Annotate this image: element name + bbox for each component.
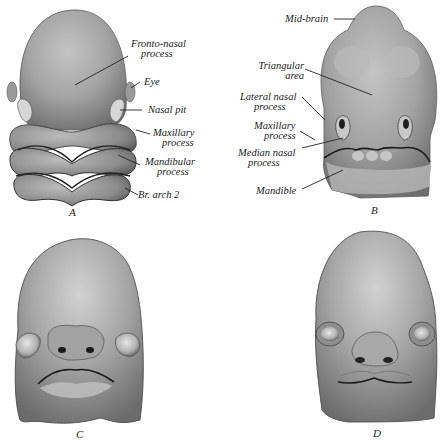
label-lateral-nasal-line2: process — [240, 101, 286, 112]
label-triangular-area: Triangular area — [252, 61, 304, 81]
label-triangular-line2: area — [285, 70, 304, 81]
label-maxillary-b-line2: process — [254, 130, 296, 141]
label-maxillary-process-b: Maxillary process — [254, 121, 296, 141]
label-br-arch-2: Br. arch 2 — [138, 190, 179, 200]
panel-letter-d: D — [373, 427, 381, 439]
label-fronto-nasal-process: Fronto-nasal process — [131, 39, 186, 59]
label-mandibular-line2: process — [145, 166, 189, 177]
label-eye: Eye — [144, 77, 160, 87]
panel-b-embryo — [321, 6, 437, 198]
panel-a-embryo — [7, 10, 136, 206]
label-median-nasal-process: Median nasal process — [238, 148, 295, 168]
label-mandibular-process: Mandibular process — [145, 157, 195, 177]
figure-illustrations — [0, 0, 443, 444]
label-median-nasal-line2: process — [238, 157, 280, 168]
label-lateral-nasal-process: Lateral nasal process — [240, 92, 296, 112]
label-fronto-nasal-line2: process — [131, 48, 173, 59]
label-nasal-pit: Nasal pit — [148, 105, 186, 115]
embryo-face-figure: Fronto-nasal process Eye Nasal pit Maxil… — [0, 0, 443, 444]
label-maxillary-process-a: Maxillary process — [153, 128, 194, 148]
panel-letter-b: B — [371, 204, 378, 216]
panel-c-embryo — [15, 239, 143, 423]
panel-letter-c: C — [76, 428, 83, 440]
label-mid-brain: Mid-brain — [285, 14, 328, 24]
panel-d-embryo — [315, 231, 436, 422]
label-maxillary-a-line2: process — [153, 137, 194, 148]
panel-letter-a: A — [69, 206, 76, 218]
label-mandible: Mandible — [256, 186, 296, 196]
